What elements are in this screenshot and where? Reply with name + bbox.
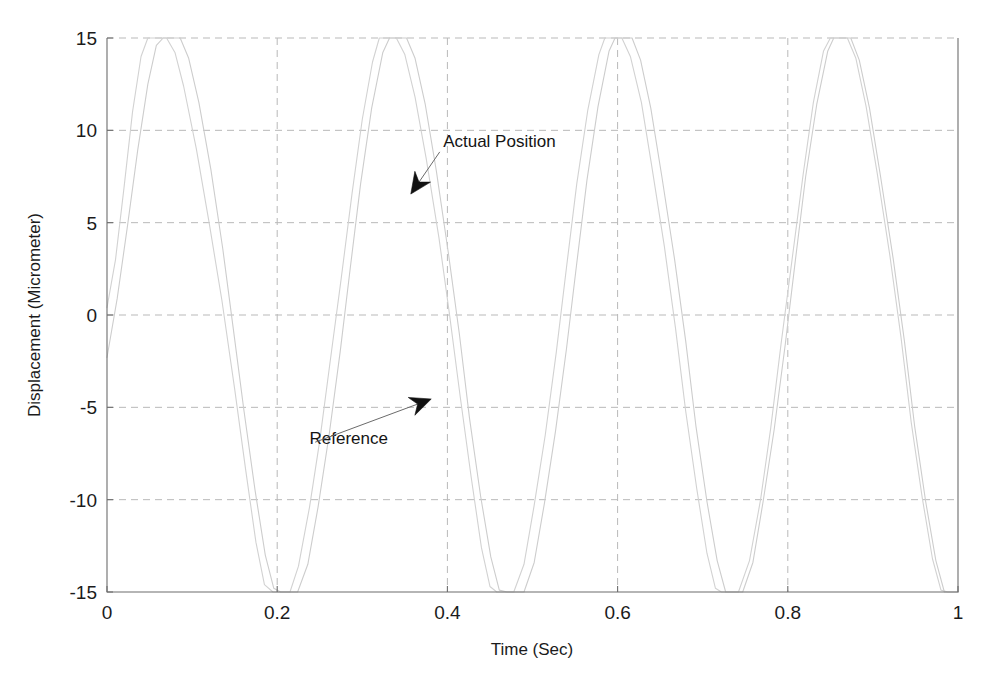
y-tick-label: -15 — [70, 582, 97, 603]
x-tick-label: 0 — [102, 602, 113, 623]
x-tick-label: 0.2 — [264, 602, 290, 623]
y-tick-label: 15 — [76, 28, 97, 49]
figure-background — [0, 0, 994, 677]
annotation-label-reference: Reference — [310, 429, 388, 448]
y-tick-label: 0 — [86, 305, 97, 326]
x-axis-label: Time (Sec) — [491, 640, 574, 659]
y-tick-label: -10 — [70, 490, 97, 511]
figure-container: 00.20.40.60.81 151050-5-10-15 Actual Pos… — [0, 0, 994, 677]
x-tick-label: 1 — [953, 602, 964, 623]
x-tick-label: 0.8 — [775, 602, 801, 623]
y-axis-label: Displacement (Micrometer) — [25, 213, 44, 417]
x-tick-label: 0.4 — [434, 602, 461, 623]
y-tick-label: 10 — [76, 120, 97, 141]
y-tick-label: -5 — [80, 397, 97, 418]
annotation-label-actual-position: Actual Position — [443, 132, 555, 151]
chart-canvas: 00.20.40.60.81 151050-5-10-15 Actual Pos… — [0, 0, 994, 677]
x-tick-label: 0.6 — [604, 602, 630, 623]
y-tick-label: 5 — [86, 213, 97, 234]
